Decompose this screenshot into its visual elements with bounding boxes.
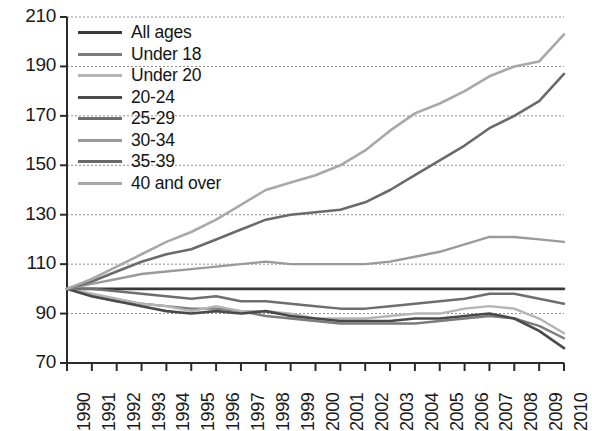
y-tick-label: 130 xyxy=(4,203,56,225)
y-tick-label: 150 xyxy=(4,153,56,175)
legend-item[interactable]: 20-24 xyxy=(78,87,228,109)
chart-legend: All agesUnder 18Under 2020-2425-2930-343… xyxy=(78,22,228,194)
legend-item[interactable]: 30-34 xyxy=(78,130,228,152)
x-tick-label: 1996 xyxy=(223,393,244,431)
y-tick-label: 170 xyxy=(4,104,56,126)
y-tick-label: 210 xyxy=(4,5,56,27)
legend-swatch-icon xyxy=(78,53,122,56)
legend-swatch-icon xyxy=(78,96,122,99)
x-tick-label: 2007 xyxy=(496,393,517,431)
series-line xyxy=(67,289,564,333)
legend-item[interactable]: 40 and over xyxy=(78,173,228,195)
legend-item[interactable]: 35-39 xyxy=(78,151,228,173)
legend-item-label: Under 18 xyxy=(131,44,201,66)
x-tick-label: 1991 xyxy=(99,393,120,431)
legend-item-label: 25-29 xyxy=(131,108,175,130)
x-tick-label: 2005 xyxy=(447,393,468,431)
x-tick-label: 2008 xyxy=(521,393,542,431)
y-tick-label: 190 xyxy=(4,54,56,76)
y-tick-label: 90 xyxy=(4,302,56,324)
legend-item[interactable]: All ages xyxy=(78,22,228,44)
legend-item-label: All ages xyxy=(131,22,192,44)
legend-swatch-icon xyxy=(78,117,122,120)
legend-swatch-icon xyxy=(78,160,122,163)
legend-item[interactable]: Under 18 xyxy=(78,44,228,66)
x-tick-label: 1997 xyxy=(248,393,269,431)
x-tick-label: 1995 xyxy=(198,393,219,431)
legend-item-label: 30-34 xyxy=(131,130,175,152)
legend-item-label: Under 20 xyxy=(131,65,201,87)
legend-swatch-icon xyxy=(78,139,122,142)
series-line xyxy=(67,289,564,348)
legend-swatch-icon xyxy=(78,74,122,77)
x-tick-label: 2010 xyxy=(571,393,592,431)
x-tick-label: 1999 xyxy=(298,393,319,431)
legend-swatch-icon xyxy=(78,31,122,34)
legend-item-label: 40 and over xyxy=(131,173,221,195)
y-tick-label: 110 xyxy=(4,252,56,274)
legend-item[interactable]: Under 20 xyxy=(78,65,228,87)
x-tick-label: 2006 xyxy=(472,393,493,431)
x-tick-label: 1992 xyxy=(124,393,145,431)
legend-item-label: 35-39 xyxy=(131,151,175,173)
x-tick-label: 2009 xyxy=(546,393,567,431)
x-tick-label: 1994 xyxy=(173,393,194,431)
y-tick-label: 70 xyxy=(4,351,56,373)
x-tick-label: 2002 xyxy=(372,393,393,431)
x-tick-label: 1998 xyxy=(273,393,294,431)
legend-swatch-icon xyxy=(78,182,122,185)
x-tick-label: 2001 xyxy=(347,393,368,431)
legend-item-label: 20-24 xyxy=(131,87,175,109)
x-tick-label: 2000 xyxy=(323,393,344,431)
x-tick-label: 1990 xyxy=(74,393,95,431)
legend-item[interactable]: 25-29 xyxy=(78,108,228,130)
x-tick-label: 2004 xyxy=(422,393,443,431)
x-tick-label: 2003 xyxy=(397,393,418,431)
x-tick-label: 1993 xyxy=(149,393,170,431)
